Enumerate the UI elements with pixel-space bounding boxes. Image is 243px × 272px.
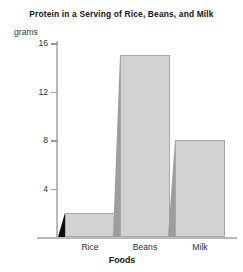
bar-rice [65, 213, 115, 237]
y-tick-label-4: 4 [26, 184, 48, 194]
y-tick-label-16: 16 [26, 38, 48, 48]
x-tick-label-rice: Rice [60, 242, 120, 252]
x-axis-line [37, 237, 237, 239]
y-tick-4 [51, 189, 58, 191]
x-tick-label-milk: Milk [170, 242, 230, 252]
bar-milk-front [175, 140, 225, 237]
chart-container: Protein in a Serving of Rice, Beans, and… [0, 0, 243, 272]
bar-beans-side [113, 55, 120, 237]
bar-rice-side [58, 213, 65, 237]
x-axis-title: Foods [42, 255, 202, 265]
y-tick-16 [51, 43, 58, 45]
plot-area: 16 12 8 4 Rice Beans Milk Foods [0, 0, 243, 272]
bar-milk [175, 140, 225, 237]
y-tick-12 [51, 92, 58, 94]
y-tick-label-12: 12 [26, 87, 48, 97]
y-tick-label-8: 8 [26, 135, 48, 145]
y-tick-8 [51, 140, 58, 142]
bar-beans [120, 55, 170, 237]
bar-rice-front [65, 213, 115, 237]
bar-beans-front [120, 55, 170, 237]
x-tick-label-beans: Beans [115, 242, 175, 252]
